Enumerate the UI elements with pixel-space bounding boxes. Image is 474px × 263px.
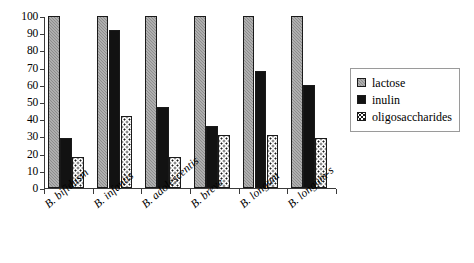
y-axis-tick-label: 100 xyxy=(21,11,38,23)
y-axis-tick-label: 80 xyxy=(27,46,38,58)
y-axis-tick xyxy=(40,120,44,121)
y-axis-tick xyxy=(40,155,44,156)
y-axis-line xyxy=(44,17,45,189)
bar-group xyxy=(97,17,133,188)
y-axis-tick-label: 60 xyxy=(27,80,38,92)
y-axis-tick xyxy=(40,172,44,173)
y-axis-tick xyxy=(40,137,44,138)
x-axis-tick xyxy=(287,189,288,194)
legend-label-inulin: inulin xyxy=(372,94,400,106)
legend-swatch-inulin-icon xyxy=(357,95,366,104)
y-axis-tick xyxy=(40,51,44,52)
legend-item-inulin: inulin xyxy=(357,91,452,108)
bar-inulin xyxy=(255,71,267,188)
y-axis-tick xyxy=(40,34,44,35)
y-axis-tick xyxy=(40,69,44,70)
bar-lactose xyxy=(97,16,109,188)
legend-swatch-oligosaccharides-icon xyxy=(357,112,366,121)
y-axis-tick-label: 0 xyxy=(32,183,38,195)
x-axis-tick xyxy=(336,189,337,194)
y-axis-tick-label: 90 xyxy=(27,28,38,40)
y-axis-tick-label: 40 xyxy=(27,114,38,126)
bar-lactose xyxy=(145,16,157,188)
y-axis-tick-label: 30 xyxy=(27,132,38,144)
bar-lactose xyxy=(291,16,303,188)
y-axis-tick-label: 70 xyxy=(27,63,38,75)
bar-group xyxy=(145,17,181,188)
legend-swatch-lactose-icon xyxy=(357,78,366,87)
bar-chart-figure: 0102030405060708090100 B. bifidusmB. inf… xyxy=(0,0,474,263)
y-axis-tick xyxy=(40,86,44,87)
bar-lactose xyxy=(243,16,255,188)
bar-inulin xyxy=(303,85,315,188)
x-axis-tick xyxy=(93,189,94,194)
legend-item-oligosaccharides: oligosaccharides xyxy=(357,108,452,125)
y-axis-tick-label: 50 xyxy=(27,97,38,109)
bar-lactose xyxy=(48,16,60,188)
x-axis-tick xyxy=(190,189,191,194)
legend-item-lactose: lactose xyxy=(357,74,452,91)
y-axis-tick-label: 20 xyxy=(27,149,38,161)
x-axis-tick xyxy=(141,189,142,194)
x-axis-tick xyxy=(239,189,240,194)
y-axis-tick xyxy=(40,17,44,18)
chart-legend: lactose inulin oligosaccharides xyxy=(350,68,460,132)
y-axis-tick-label: 10 xyxy=(27,166,38,178)
y-axis-tick xyxy=(40,103,44,104)
legend-label-oligosaccharides: oligosaccharides xyxy=(372,111,452,123)
legend-label-lactose: lactose xyxy=(372,77,405,89)
bar-group xyxy=(291,17,327,188)
bar-group xyxy=(48,17,84,188)
bar-group xyxy=(243,17,279,188)
x-axis-tick xyxy=(44,189,45,194)
bar-inulin xyxy=(109,30,121,188)
